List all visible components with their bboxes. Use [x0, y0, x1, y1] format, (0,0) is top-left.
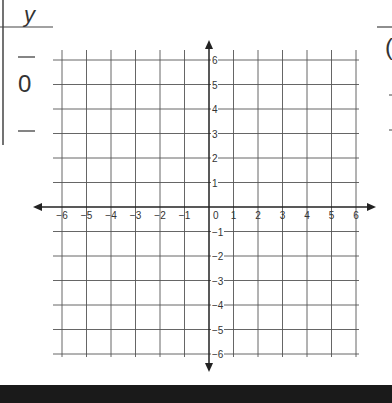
- bottom-dark-bar: [0, 385, 392, 403]
- grid-lines: [53, 50, 359, 357]
- x-tick-label: −1: [179, 210, 191, 221]
- x-tick-label: −4: [105, 210, 117, 221]
- x-axis-left-arrow-icon: [33, 203, 42, 211]
- x-tick-label: 2: [255, 210, 261, 221]
- x-tick-label: −2: [154, 210, 166, 221]
- left-table-fragment: y 0: [0, 0, 53, 145]
- x-tick-label: 4: [304, 210, 310, 221]
- x-axis-right-arrow-icon: [367, 203, 376, 211]
- column-header-y: y: [22, 2, 37, 27]
- x-tick-label: 0: [213, 210, 219, 221]
- x-tick-label: −3: [130, 210, 142, 221]
- y-tick-label: −5: [212, 325, 224, 336]
- y-tick-label: −1: [212, 227, 224, 238]
- y-tick-label: 1: [212, 178, 218, 189]
- y-tick-label: 6: [212, 55, 218, 66]
- y-tick-label: 5: [212, 80, 218, 91]
- y-axis-down-arrow-icon: [205, 363, 213, 372]
- coordinate-plane: y 0 ( −6−5−4−3−2−10123456654321−1−2−3−4−…: [0, 0, 392, 403]
- partial-glyph: (: [385, 33, 392, 60]
- y-tick-label: 2: [212, 153, 218, 164]
- x-tick-label: 5: [329, 210, 335, 221]
- coordinate-grid-worksheet: y 0 ( −6−5−4−3−2−10123456654321−1−2−3−4−…: [0, 0, 392, 403]
- y-tick-label: −6: [212, 349, 224, 360]
- x-tick-label: −6: [56, 210, 68, 221]
- y-tick-label: −3: [212, 276, 224, 287]
- y-tick-label: −2: [212, 251, 224, 262]
- y-axis-up-arrow-icon: [205, 40, 213, 49]
- x-tick-label: 1: [231, 210, 237, 221]
- table-value: 0: [18, 70, 31, 97]
- y-tick-label: −4: [212, 300, 224, 311]
- right-table-fragment: (: [377, 27, 392, 130]
- y-tick-label: 3: [212, 129, 218, 140]
- x-tick-label: 3: [280, 210, 286, 221]
- axes: [33, 40, 376, 372]
- x-tick-label: 6: [353, 210, 359, 221]
- x-tick-label: −5: [81, 210, 93, 221]
- y-tick-label: 4: [212, 104, 218, 115]
